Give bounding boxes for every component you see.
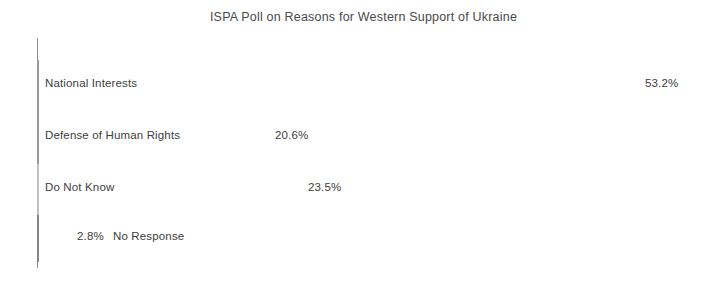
bar-category-label-no-response: No Response (113, 230, 184, 242)
bar-value-label-national-interests: 53.2% (645, 77, 678, 89)
bar-value-label-defense-human-rights: 20.6% (275, 129, 308, 141)
bar-category-label-defense-human-rights: Defense of Human Rights (45, 129, 180, 141)
bar-value-label-no-response: 2.8% (77, 230, 104, 242)
plot-area: National Interests 53.2% Defense of Huma… (0, 0, 727, 291)
bar-row-no-response (37, 215, 69, 262)
bar-value-label-do-not-know: 23.5% (308, 181, 341, 193)
bar-category-label-do-not-know: Do Not Know (45, 181, 114, 193)
bar-chart-figure: ISPA Poll on Reasons for Western Support… (0, 0, 727, 291)
bar-category-label-national-interests: National Interests (45, 77, 137, 89)
bar-national-interests (37, 60, 39, 112)
bar-defense-human-rights (37, 112, 39, 164)
bar-do-not-know (37, 164, 39, 215)
bar-row-defense-human-rights: Defense of Human Rights (37, 112, 270, 164)
bar-no-response (37, 215, 39, 262)
bar-row-do-not-know: Do Not Know (37, 164, 303, 215)
bar-row-national-interests: National Interests (37, 60, 640, 112)
